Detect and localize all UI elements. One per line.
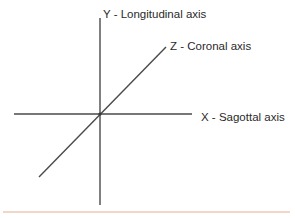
axes-diagram: Y - Longitudinal axis Z - Coronal axis X… <box>0 0 295 218</box>
x-axis-label: X - Sagottal axis <box>201 111 285 123</box>
z-axis-line <box>39 47 166 177</box>
z-axis-label: Z - Coronal axis <box>170 40 251 52</box>
diagram-svg: Y - Longitudinal axis Z - Coronal axis X… <box>0 0 295 218</box>
origin-point <box>98 112 101 115</box>
y-axis-label: Y - Longitudinal axis <box>103 8 207 20</box>
